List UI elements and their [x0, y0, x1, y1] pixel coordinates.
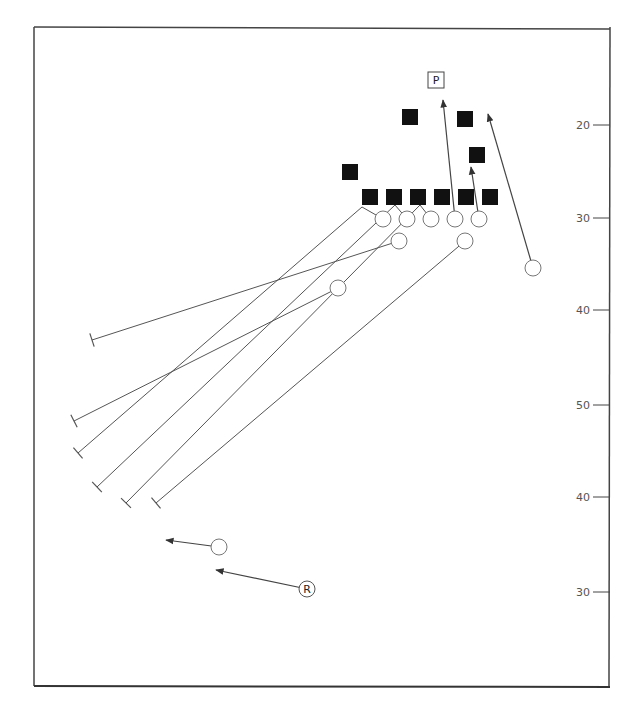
- player-circle-icon: [399, 211, 415, 227]
- block-route-line: [74, 288, 338, 421]
- player-circle-icon: [457, 233, 473, 249]
- yard-label: 30: [576, 212, 590, 225]
- offense-players: [211, 211, 541, 555]
- defender-square-icon: [386, 189, 402, 205]
- block-end-icon: [151, 498, 160, 509]
- defender-square-icon: [342, 164, 358, 180]
- player-circle-icon: [391, 233, 407, 249]
- block-route-line: [92, 241, 399, 340]
- block-route-line: [97, 205, 407, 487]
- yard-markers: 203040504030: [576, 119, 610, 599]
- returner-marker: R: [299, 581, 315, 597]
- defender-square-icon: [482, 189, 498, 205]
- yard-label: 50: [576, 399, 590, 412]
- block-end-icon: [73, 448, 82, 459]
- yard-label: 40: [576, 491, 590, 504]
- player-circle-icon: [423, 211, 439, 227]
- returner-label: R: [303, 583, 311, 596]
- block-routes: [71, 205, 465, 508]
- player-circle-icon: [211, 539, 227, 555]
- yard-label: 40: [576, 304, 590, 317]
- yard-label: 30: [576, 586, 590, 599]
- player-circle-icon: [330, 280, 346, 296]
- player-labels: P R: [299, 72, 444, 597]
- sideline: [609, 27, 610, 686]
- field-frame: [34, 27, 610, 687]
- player-circle-icon: [375, 211, 391, 227]
- punter-marker: P: [428, 72, 444, 88]
- defender-square-icon: [458, 189, 474, 205]
- punter-label: P: [433, 74, 440, 87]
- block-route-line: [156, 241, 465, 503]
- defender-square-icon: [457, 111, 473, 127]
- play-diagram: 203040504030 P R: [0, 0, 631, 709]
- block-route-line: [126, 205, 431, 503]
- defender-square-icon: [410, 189, 426, 205]
- yard-label: 20: [576, 119, 590, 132]
- player-circle-icon: [471, 211, 487, 227]
- block-end-icon: [71, 415, 77, 428]
- arrow-route: [216, 570, 307, 589]
- defender-square-icon: [402, 109, 418, 125]
- defender-square-icon: [362, 189, 378, 205]
- player-circle-icon: [447, 211, 463, 227]
- defender-square-icon: [469, 147, 485, 163]
- defender-square-icon: [434, 189, 450, 205]
- player-circle-icon: [525, 260, 541, 276]
- frame-bottom: [34, 686, 610, 687]
- frame-top: [34, 27, 610, 29]
